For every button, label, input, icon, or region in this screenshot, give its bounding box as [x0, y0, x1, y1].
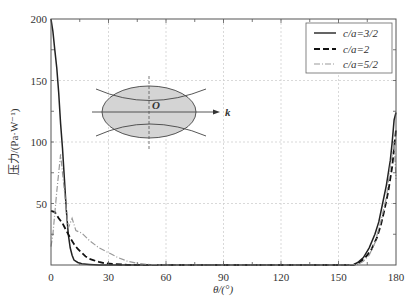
x-tick-label: 120 [273, 271, 290, 283]
x-tick-label: 60 [161, 271, 173, 283]
x-tick-label: 150 [330, 271, 347, 283]
pressure-chart: O k 030609012015018050100150200 θ/(°) 压力… [0, 0, 418, 307]
legend-label-3: c/a=5/2 [343, 58, 378, 70]
y-tick-label: 150 [31, 75, 48, 87]
y-tick-label: 100 [31, 136, 48, 148]
x-tick-label: 180 [388, 271, 405, 283]
y-axis-title: 压力/(Pa·W⁻¹) [8, 108, 21, 175]
x-tick-label: 30 [103, 271, 115, 283]
arrow-right-icon [213, 110, 220, 115]
x-axis-title: θ/(°) [213, 283, 234, 296]
inset-k-label: k [225, 106, 231, 118]
legend-label-2: c/a=2 [343, 43, 370, 55]
inset-ellipse-diagram: O k [92, 76, 231, 150]
inset-origin-label: O [152, 99, 160, 111]
x-tick-label: 0 [48, 271, 54, 283]
x-tick-label: 90 [218, 271, 230, 283]
legend-label-1: c/a=3/2 [343, 27, 378, 39]
legend: c/a=3/2 c/a=2 c/a=5/2 [306, 23, 392, 73]
y-tick-label: 200 [31, 13, 48, 25]
y-tick-label: 50 [36, 198, 48, 210]
